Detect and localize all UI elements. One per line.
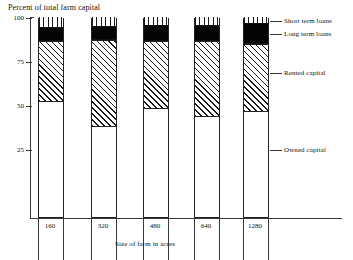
segment-owned-capital-160 [39, 102, 63, 217]
legend-label-owned-capital: Owned capital [284, 146, 326, 154]
segment-rented-capital-480 [144, 41, 168, 109]
legend-label-rented-capital: Rented capital [284, 69, 326, 77]
legend-label-long-term-loans: Long term loans [284, 30, 331, 38]
segment-owned-capital-320 [92, 127, 116, 217]
legend-leader-owned-capital [270, 150, 282, 151]
segment-rented-capital-1280 [244, 44, 268, 112]
x-tick-label-320: 320 [83, 222, 123, 230]
x-axis-title: Size of farm in acres [0, 240, 290, 248]
y-tick-label-75: 75 [2, 58, 24, 66]
segment-owned-capital-1280 [244, 112, 268, 217]
segment-long-term-loans-640 [195, 25, 219, 41]
segment-short-term-loans-160 [39, 17, 63, 27]
segment-short-term-loans-640 [195, 17, 219, 25]
segment-long-term-loans-1280 [244, 23, 268, 44]
segment-short-term-loans-480 [144, 17, 168, 25]
segment-owned-capital-480 [144, 109, 168, 217]
segment-long-term-loans-320 [92, 26, 116, 40]
y-tick-50 [26, 106, 32, 107]
bar-160 [38, 18, 64, 218]
segment-rented-capital-320 [92, 40, 116, 127]
legend-leader-long-term-loans [270, 34, 282, 35]
segment-long-term-loans-480 [144, 25, 168, 41]
y-tick-75 [26, 62, 32, 63]
segment-long-term-loans-160 [39, 27, 63, 41]
segment-owned-capital-640 [195, 117, 219, 217]
legend-label-short-term-loans: Short term loans [284, 17, 332, 25]
y-tick-label-50: 50 [2, 102, 24, 110]
bar-320 [91, 18, 117, 218]
x-axis-line [30, 218, 342, 219]
x-tick-label-640: 640 [186, 222, 226, 230]
bar-1280 [243, 18, 269, 218]
x-tick-label-480: 480 [135, 222, 175, 230]
legend-leader-short-term-loans [270, 21, 282, 22]
legend-leader-rented-capital [270, 73, 282, 74]
y-tick-100 [26, 18, 32, 19]
y-tick-label-25: 25 [2, 146, 24, 154]
bar-640 [194, 18, 220, 218]
segment-short-term-loans-320 [92, 17, 116, 26]
chart-container: Percent of total farm capital 100 75 50 … [0, 0, 353, 260]
y-tick-label-100: 100 [2, 14, 24, 22]
segment-short-term-loans-1280 [244, 17, 268, 23]
bar-480 [143, 18, 169, 218]
segment-rented-capital-160 [39, 41, 63, 102]
x-tick-label-160: 160 [30, 222, 70, 230]
y-tick-25 [26, 150, 32, 151]
y-axis-line [30, 17, 31, 219]
segment-rented-capital-640 [195, 41, 219, 117]
x-tick-label-1280: 1280 [235, 222, 275, 230]
y-axis-title: Percent of total farm capital [8, 3, 100, 12]
